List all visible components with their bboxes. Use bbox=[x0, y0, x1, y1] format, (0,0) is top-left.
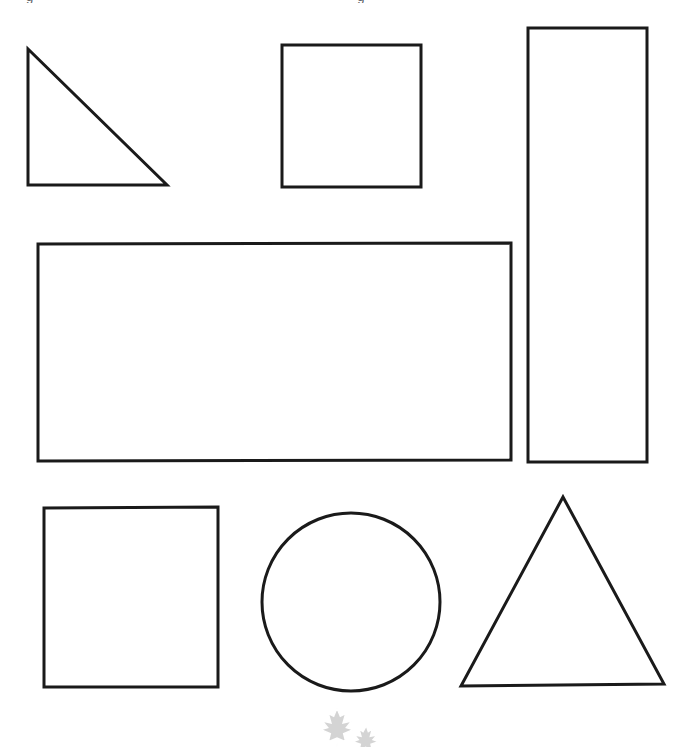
circle bbox=[262, 513, 440, 691]
square-bottom bbox=[44, 507, 218, 687]
wide-rectangle bbox=[38, 243, 511, 461]
equilateral-triangle bbox=[461, 497, 664, 686]
right-triangle bbox=[28, 49, 167, 185]
square-top bbox=[282, 45, 421, 187]
tall-rectangle bbox=[528, 28, 647, 462]
